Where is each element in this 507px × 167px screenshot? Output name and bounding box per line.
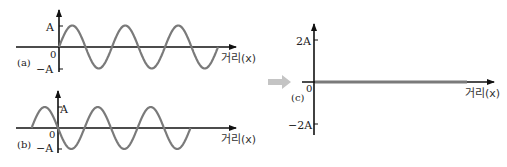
panel-c-origin-label: 0 <box>306 83 312 94</box>
panel-a-ymax-label: A <box>45 21 55 34</box>
panel-c: 2A 0 (c) −2A 거리(x) <box>288 24 500 135</box>
panel-b-ymin-label: −A <box>36 142 54 155</box>
panel-a-x-label: 거리(x) <box>221 52 256 65</box>
wave-superposition-diagram: A 0 −A (a) 거리(x) A 0 −A (b) 거리(x) 2A 0 (… <box>0 0 507 167</box>
right-arrow-icon <box>268 75 291 89</box>
diagram-canvas: A 0 −A (a) 거리(x) A 0 −A (b) 거리(x) 2A 0 (… <box>0 0 507 167</box>
panel-b: A 0 −A (b) 거리(x) <box>16 91 256 155</box>
panel-c-x-label: 거리(x) <box>465 87 500 100</box>
panel-c-ymin-label: −2A <box>288 119 313 132</box>
panel-a-origin-label: 0 <box>50 49 56 60</box>
panel-b-tag: (b) <box>17 139 31 150</box>
panel-a-tag: (a) <box>17 57 31 68</box>
panel-a-ymin-label: −A <box>36 63 54 76</box>
panel-b-x-label: 거리(x) <box>221 133 256 146</box>
panel-b-ymax-label: A <box>59 103 69 116</box>
panel-b-origin-label: 0 <box>49 129 55 140</box>
panel-c-ymax-label: 2A <box>296 35 312 48</box>
panel-a: A 0 −A (a) 거리(x) <box>16 10 256 76</box>
panel-c-tag: (c) <box>291 92 305 103</box>
